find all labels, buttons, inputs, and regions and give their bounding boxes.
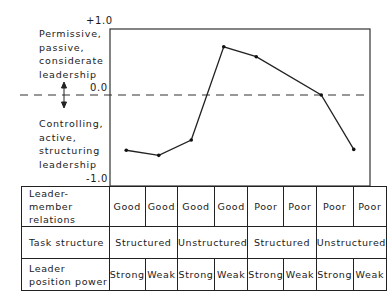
table-cell: Structured xyxy=(109,227,177,259)
data-point xyxy=(254,55,258,59)
table-row-task-structure: Task structure Structured Unstructured S… xyxy=(22,227,387,259)
table-cell: Weak xyxy=(353,259,386,291)
table-cell: Strong xyxy=(109,259,145,291)
table-row-position-power: Leader position power Strong Weak Strong… xyxy=(22,259,387,291)
table-cell: Weak xyxy=(145,259,177,291)
table-cell: Unstructured xyxy=(316,227,386,259)
table-cell: Structured xyxy=(248,227,316,259)
table-cell: Poor xyxy=(353,187,386,227)
table-cell: Good xyxy=(178,187,215,227)
table-cell: Good xyxy=(109,187,145,227)
data-point xyxy=(189,138,193,142)
row-header: Leader position power xyxy=(22,259,110,291)
table-row-relations: Leader-member relations Good Good Good G… xyxy=(22,187,387,227)
row-header: Leader-member relations xyxy=(22,187,110,227)
table-cell: Good xyxy=(214,187,247,227)
table-cell: Poor xyxy=(284,187,316,227)
table-cell: Strong xyxy=(316,259,353,291)
table-cell: Poor xyxy=(248,187,284,227)
condition-table: Leader-member relations Good Good Good G… xyxy=(21,186,387,291)
table-cell: Poor xyxy=(316,187,353,227)
table-cell: Good xyxy=(145,187,177,227)
table-cell: Weak xyxy=(214,259,247,291)
table-cell: Unstructured xyxy=(178,227,248,259)
data-point xyxy=(222,45,226,49)
plot-frame xyxy=(110,29,370,186)
row-header: Task structure xyxy=(22,227,110,259)
data-point xyxy=(319,93,323,97)
data-point xyxy=(157,154,161,158)
table-cell: Weak xyxy=(284,259,316,291)
table-cell: Strong xyxy=(248,259,284,291)
data-point xyxy=(124,148,128,152)
table-cell: Strong xyxy=(178,259,215,291)
data-series xyxy=(124,45,355,157)
series-line xyxy=(126,47,354,156)
data-point xyxy=(352,148,356,152)
